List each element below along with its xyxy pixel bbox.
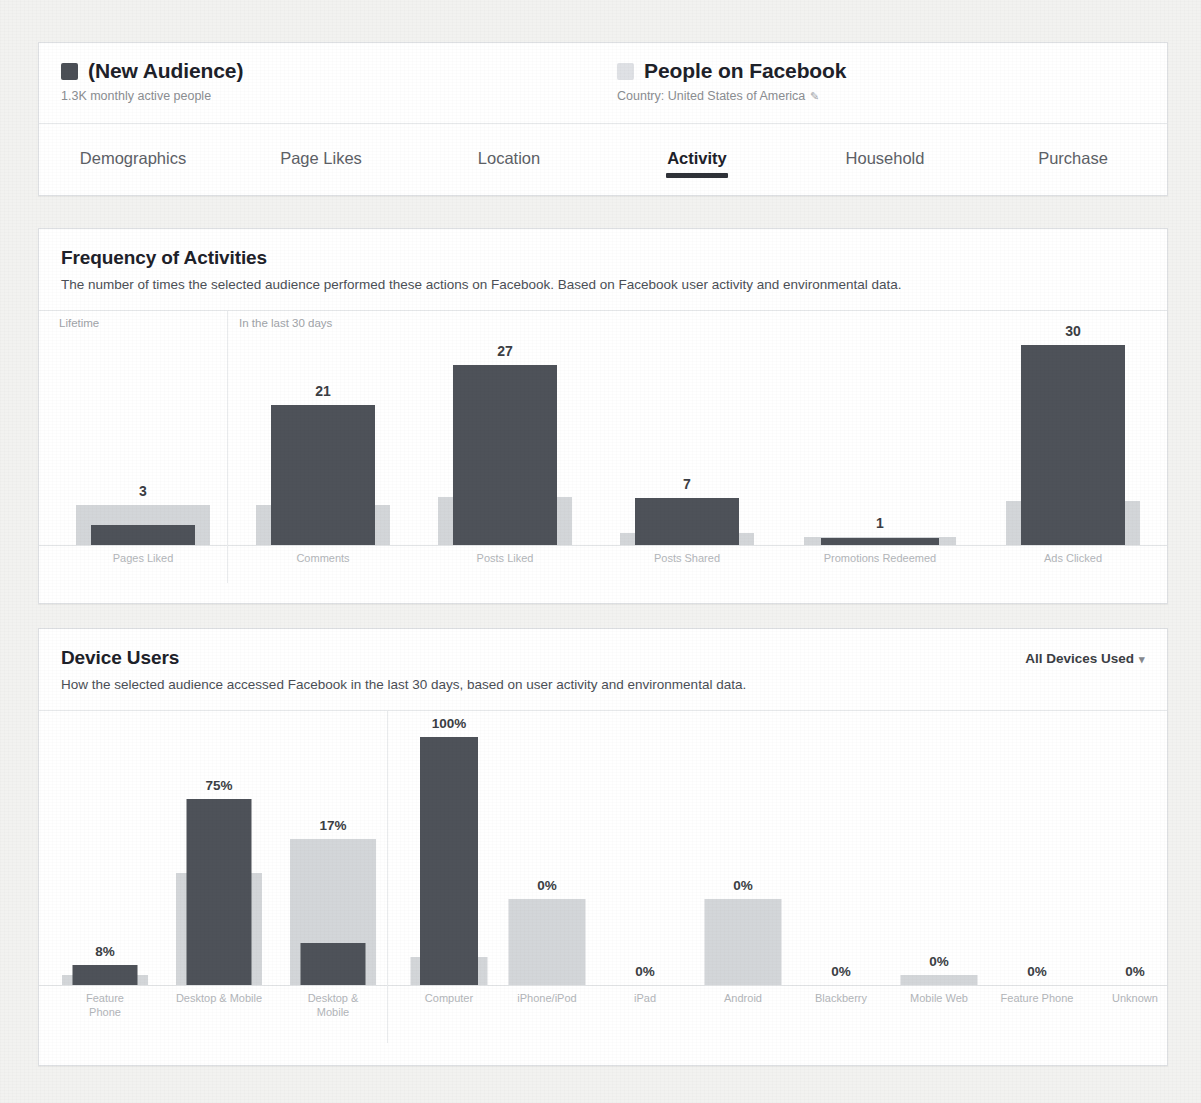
bar-category-label: Desktop & Mobile [165, 992, 273, 1006]
comparison-bar[interactable] [901, 975, 978, 985]
bar-value-label: 100% [432, 716, 467, 731]
bar-value-label: 0% [635, 964, 655, 979]
audience-header-top: (New Audience) 1.3K monthly active peopl… [39, 43, 1167, 123]
bar-group: 100% [401, 737, 497, 985]
tab-location-label: Location [478, 149, 540, 168]
insights-tab-bar: Demographics Page Likes Location Activit… [39, 123, 1167, 192]
bar-category-label: Computer [401, 992, 497, 1006]
tab-household[interactable]: Household [791, 124, 979, 192]
audience-header-card: (New Audience) 1.3K monthly active peopl… [38, 42, 1168, 196]
device-users-card: Device Users How the selected audience a… [38, 628, 1168, 1066]
bar-frame: 8%75%Desktop & Mobile17%Desktop & Mobile… [39, 737, 1167, 985]
pencil-icon[interactable]: ✎ [810, 90, 819, 103]
frequency-section-description: The number of times the selected audienc… [61, 276, 1145, 294]
device-section-description: How the selected audience accessed Faceb… [61, 676, 1145, 694]
all-devices-used-dropdown[interactable]: All Devices Used▾ [1025, 651, 1145, 666]
selected-bar[interactable] [420, 737, 478, 985]
bar-stack: 75% [165, 737, 273, 985]
frequency-section-header: Frequency of Activities The number of ti… [39, 229, 1167, 294]
bar-value-label: 0% [733, 878, 753, 893]
comparison-audience-title-row: People on Facebook [617, 59, 1159, 83]
bar-group: 75% [165, 737, 273, 985]
bar-value-label: 0% [537, 878, 557, 893]
tab-demographics[interactable]: Demographics [39, 124, 227, 192]
bar-group: 8% [51, 737, 159, 985]
comparison-bar[interactable] [705, 899, 782, 985]
selected-audience-swatch-icon [61, 63, 78, 80]
comparison-audience-country: Country: United States of America [617, 89, 805, 103]
bar-stack: 0% [1087, 737, 1183, 985]
selected-audience-subtitle: 1.3K monthly active people [61, 89, 599, 103]
selected-audience-title-row: (New Audience) [61, 59, 599, 83]
chart-baseline [39, 985, 1167, 986]
bar-group: 0% [695, 737, 791, 985]
tab-page-likes-label: Page Likes [280, 149, 362, 168]
bar-category-label: Blackberry [793, 992, 889, 1006]
selected-bar[interactable] [187, 799, 252, 985]
bar-category-label: Ads Clicked [989, 552, 1157, 566]
bar-category-label: Feature Phone [51, 992, 159, 1020]
tab-active-underline [666, 173, 728, 178]
comparison-bar[interactable] [509, 899, 586, 985]
selected-bar[interactable] [73, 965, 138, 985]
bar-group: 17% [279, 737, 387, 985]
tab-activity[interactable]: Activity [603, 124, 791, 192]
bar-category-label: Promotions Redeemed [785, 552, 975, 566]
bar-value-label: 0% [831, 964, 851, 979]
chevron-down-icon: ▾ [1139, 653, 1145, 666]
bar-value-label: 75% [205, 778, 232, 793]
bar-value-label: 30 [1065, 323, 1081, 339]
tab-demographics-label: Demographics [80, 149, 186, 168]
tab-location[interactable]: Location [415, 124, 603, 192]
bar-stack: 8% [51, 737, 159, 985]
frequency-section-title: Frequency of Activities [61, 247, 1145, 269]
device-users-chart: 8%75%Desktop & Mobile17%Desktop & Mobile… [39, 711, 1167, 1043]
bar-category-label: Feature Phone [989, 992, 1085, 1006]
frequency-of-activities-card: Frequency of Activities The number of ti… [38, 228, 1168, 604]
bar-category-label: Unknown [1087, 992, 1183, 1006]
bar-frame: 30 [39, 345, 1167, 545]
bar-stack: 30 [989, 345, 1157, 545]
audience-insights-page: (New Audience) 1.3K monthly active peopl… [0, 0, 1201, 1103]
bar-value-label: 0% [1027, 964, 1047, 979]
bar-value-label: 8% [95, 944, 115, 959]
bar-category-label: iPad [597, 992, 693, 1006]
bar-category-label: Posts Liked [421, 552, 589, 566]
bar-stack: 100% [401, 737, 497, 985]
tab-purchase-label: Purchase [1038, 149, 1108, 168]
selected-bar[interactable] [301, 943, 366, 985]
bar-category-label: Desktop & Mobile [279, 992, 387, 1020]
bar-category-label: iPhone/iPod [499, 992, 595, 1006]
tab-page-likes[interactable]: Page Likes [227, 124, 415, 192]
bar-group: 0% [891, 737, 987, 985]
chart-group-label-1: In the last 30 days [239, 317, 332, 329]
bar-value-label: 0% [929, 954, 949, 969]
bar-group: 30 [989, 345, 1157, 545]
device-section-title: Device Users [61, 647, 1145, 669]
comparison-audience-title: People on Facebook [644, 59, 846, 83]
bar-group: 0% [499, 737, 595, 985]
selected-bar[interactable] [1021, 345, 1125, 545]
bar-category-label: Comments [239, 552, 407, 566]
bar-stack: 0% [793, 737, 889, 985]
bar-stack: 0% [989, 737, 1085, 985]
bar-group: 0% [793, 737, 889, 985]
tab-household-label: Household [846, 149, 925, 168]
bar-stack: 0% [695, 737, 791, 985]
bar-stack: 17% [279, 737, 387, 985]
bar-stack: 0% [499, 737, 595, 985]
bar-stack: 0% [597, 737, 693, 985]
chart-group-label-0: Lifetime [59, 317, 99, 329]
bar-category-label: Mobile Web [891, 992, 987, 1006]
frequency-of-activities-chart: LifetimeIn the last 30 days3Pages Liked2… [39, 311, 1167, 583]
tab-purchase[interactable]: Purchase [979, 124, 1167, 192]
bar-stack: 0% [891, 737, 987, 985]
all-devices-used-label: All Devices Used [1025, 651, 1134, 666]
bar-value-label: 17% [319, 818, 346, 833]
bar-value-label: 0% [1125, 964, 1145, 979]
bar-category-label: Posts Shared [603, 552, 771, 566]
comparison-audience-subtitle: Country: United States of America✎ [617, 89, 1159, 103]
bar-group: 0% [989, 737, 1085, 985]
bar-category-label: Android [695, 992, 791, 1006]
comparison-audience-block: People on Facebook Country: United State… [599, 43, 1159, 123]
